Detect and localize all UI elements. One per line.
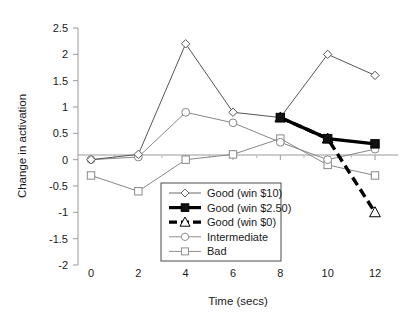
y-tick-label: 0.5 (53, 127, 68, 139)
y-tick-label: -1.5 (49, 233, 68, 245)
legend-label: Good (win $2.50) (207, 202, 291, 214)
x-axis-title: Time (secs) (208, 295, 268, 307)
data-point-marker (276, 138, 284, 146)
data-point-marker (229, 151, 236, 158)
y-tick-label: 1 (62, 101, 68, 113)
y-axis-tick-labels: 2.521.510.50-0.5-1-1.5-2 (49, 22, 68, 271)
x-tick-label: 12 (369, 267, 381, 279)
y-tick-label: -2 (58, 259, 68, 271)
legend-item-good-win-0[interactable]: Good (win $0) (169, 216, 276, 228)
data-point-marker (371, 172, 378, 179)
data-point-marker (323, 50, 331, 58)
x-tick-label: 4 (183, 267, 189, 279)
data-point-marker (182, 248, 189, 255)
x-tick-label: 0 (88, 267, 94, 279)
x-tick-label: 8 (277, 267, 283, 279)
line-chart: 2.521.510.50-0.5-1-1.5-2 024681012 Chang… (0, 0, 411, 321)
data-point-marker (181, 233, 188, 240)
legend-label: Intermediate (207, 231, 268, 243)
x-tick-label: 6 (230, 267, 236, 279)
data-point-marker (371, 140, 379, 148)
x-tick-label: 10 (322, 267, 334, 279)
legend-label: Good (win $10) (207, 187, 282, 199)
y-tick-label: 1.5 (53, 75, 68, 87)
x-axis-tick-labels: 024681012 (88, 267, 381, 279)
data-point-marker (181, 204, 189, 212)
legend-label: Bad (207, 245, 227, 257)
data-point-marker (182, 156, 189, 163)
chart-legend: Good (win $10)Good (win $2.50)Good (win … (161, 183, 291, 261)
y-tick-label: 0 (62, 154, 68, 166)
legend-label: Good (win $0) (207, 216, 276, 228)
data-point-marker (182, 108, 190, 116)
x-tick-label: 2 (135, 267, 141, 279)
series-good-win-2-50 (276, 113, 379, 148)
data-point-marker (323, 134, 331, 142)
data-point-marker (229, 108, 237, 116)
y-axis-ticks (73, 28, 78, 265)
data-point-marker (87, 172, 94, 179)
data-point-marker (371, 71, 379, 79)
y-tick-label: -1 (58, 206, 68, 218)
legend-item-good-win-2-50[interactable]: Good (win $2.50) (169, 202, 291, 214)
data-point-marker (135, 188, 142, 195)
data-point-marker (276, 113, 284, 121)
data-point-marker (181, 40, 189, 48)
series-good-win-10 (87, 40, 379, 164)
y-tick-label: 2 (62, 48, 68, 60)
data-point-marker (324, 156, 332, 164)
y-tick-label: 2.5 (53, 22, 68, 34)
y-axis-title: Change in activation (16, 94, 28, 198)
data-point-marker (229, 119, 237, 127)
chart-container: 2.521.510.50-0.5-1-1.5-2 024681012 Chang… (0, 0, 411, 321)
y-tick-label: -0.5 (49, 180, 68, 192)
